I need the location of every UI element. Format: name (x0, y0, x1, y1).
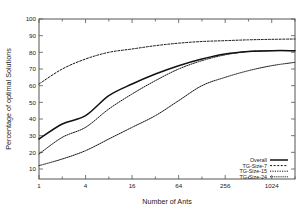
y-tick-label: 40 (29, 115, 36, 122)
y-tick-label: 70 (29, 65, 36, 72)
chart-figure: 102030405060708090100 1416642561024 Numb… (0, 0, 307, 215)
y-tick-label: 80 (29, 49, 36, 56)
y-tick-label: 50 (29, 99, 36, 106)
x-tick-label: 4 (84, 182, 88, 189)
series-curves (39, 39, 295, 166)
y-tick-label: 90 (29, 32, 36, 39)
y-axis-ticks: 102030405060708090100 (26, 15, 295, 172)
line-chart: 102030405060708090100 1416642561024 Numb… (0, 0, 307, 215)
x-tick-label: 1024 (265, 182, 279, 189)
y-tick-label: 10 (29, 165, 36, 172)
series-line-tg-size-15 (39, 51, 295, 154)
series-line-tg-size-7 (39, 39, 295, 84)
x-axis-title: Number of Ants (142, 197, 192, 206)
x-tick-label: 64 (175, 182, 182, 189)
y-tick-label: 20 (29, 149, 36, 156)
plot-frame (39, 19, 295, 179)
x-tick-label: 16 (129, 182, 136, 189)
x-tick-label: 1 (37, 182, 41, 189)
series-line-overall (39, 51, 295, 139)
y-tick-label: 60 (29, 82, 36, 89)
y-axis-title: Percentage of optimal Solutions (4, 48, 13, 150)
series-line-tg-size-24 (39, 62, 295, 165)
chart-legend: OverallTG-Size-7TG-Size-15TG-Size-24 (239, 157, 288, 180)
y-tick-label: 30 (29, 132, 36, 139)
x-tick-label: 256 (220, 182, 231, 189)
y-tick-label: 100 (26, 15, 37, 22)
legend-label-tg-size-24: TG-Size-24 (239, 174, 267, 180)
